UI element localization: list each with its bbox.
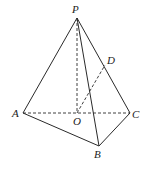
tetrahedron-figure: P A B C O D <box>0 0 148 173</box>
geometry-diagram: P A B C O D <box>0 0 148 173</box>
label-B: B <box>94 148 101 160</box>
edge-OD <box>77 65 105 113</box>
edge-BC <box>99 113 130 146</box>
edge-AB <box>23 113 99 146</box>
label-A: A <box>11 107 19 119</box>
label-D: D <box>106 54 115 66</box>
edge-PA <box>23 18 77 113</box>
label-P: P <box>71 3 79 15</box>
label-O: O <box>73 115 81 127</box>
label-C: C <box>132 108 140 120</box>
